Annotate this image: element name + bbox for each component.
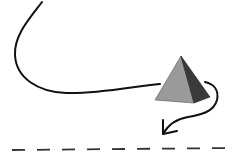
diagram-canvas <box>0 0 240 155</box>
dashed-line <box>12 148 236 150</box>
diagram-svg <box>0 0 240 155</box>
curved-path-line <box>15 2 160 93</box>
pyramid-icon <box>155 56 210 103</box>
